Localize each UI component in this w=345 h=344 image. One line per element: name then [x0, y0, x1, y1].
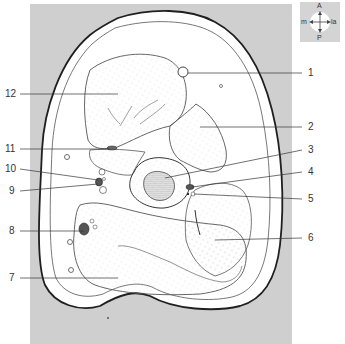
label-5: 5	[308, 194, 314, 204]
label-2: 2	[308, 122, 314, 132]
label-11: 11	[5, 144, 15, 154]
label-7: 7	[9, 273, 15, 283]
label-6: 6	[308, 233, 314, 243]
label-12: 12	[5, 89, 16, 99]
nerve-10	[96, 178, 103, 186]
compass-anterior: A	[317, 2, 322, 9]
label-10: 10	[5, 164, 16, 174]
compass-lateral: la	[331, 18, 336, 25]
label-8: 8	[9, 226, 15, 236]
nerve-8	[79, 223, 89, 235]
nerve-11	[107, 146, 117, 150]
cross-section-diagram	[0, 0, 345, 344]
label-1: 1	[308, 68, 314, 78]
compass-posterior: P	[317, 34, 322, 41]
label-3: 3	[308, 145, 314, 155]
orientation-compass: A P m la	[300, 2, 340, 42]
vessel-1	[178, 67, 188, 77]
compass-medial: m	[301, 18, 307, 25]
label-4: 4	[308, 167, 314, 177]
label-9: 9	[9, 186, 15, 196]
